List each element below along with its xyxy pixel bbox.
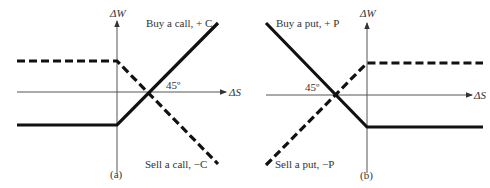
panel-a-buy-call-label: Buy a call, + C (146, 17, 212, 29)
panel-b-sell-put-label: Sell a put, −P (275, 158, 334, 170)
panel-b-angle-label: 45º (305, 81, 320, 93)
panel-a-angle-label: 45º (166, 79, 181, 91)
panel-b-buy-put-label: Buy a put, + P (276, 17, 339, 29)
panel-a-sell-call-label: Sell a call, −C (145, 158, 207, 170)
panel-b-put: ΔW ΔS 45º Buy a put, + P Sell a put, −P … (266, 7, 486, 182)
panel-a-caption: (a) (110, 168, 123, 181)
panel-b-x-axis-label: ΔS (473, 89, 486, 101)
panel-b-sell-put-line (266, 63, 483, 165)
panel-a-x-axis-label: ΔS (228, 86, 241, 98)
option-payoff-diagrams: ΔW ΔS 45º Buy a call, + C Sell a call, −… (0, 0, 490, 188)
panel-b-buy-put-line (266, 23, 483, 127)
panel-a-y-axis-label: ΔW (109, 7, 126, 19)
panel-a-call: ΔW ΔS 45º Buy a call, + C Sell a call, −… (17, 7, 241, 181)
panel-b-y-axis-label: ΔW (359, 7, 376, 19)
panel-b-caption: (b) (360, 169, 373, 182)
